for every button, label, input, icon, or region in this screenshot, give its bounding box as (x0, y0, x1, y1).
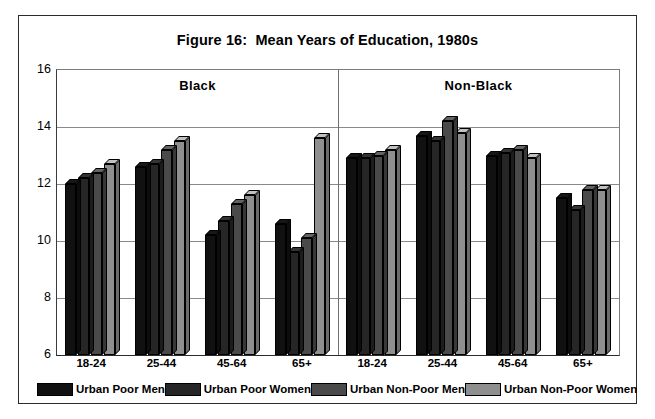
bar-cluster (65, 70, 120, 355)
bar[interactable] (135, 167, 146, 355)
y-tick-label-8: 8 (44, 290, 51, 304)
bar-cluster (135, 70, 190, 355)
x-tick-label-65+: 65+ (573, 357, 593, 369)
bar-side-face (536, 153, 541, 355)
x-tick-label-18-24: 18-24 (76, 357, 105, 369)
bar[interactable] (416, 136, 427, 355)
bar-side-face (216, 230, 221, 355)
legend-item-3[interactable]: Urban Non-Poor Women (465, 383, 637, 396)
bar-side-face (89, 173, 94, 355)
legend-item-1[interactable]: Urban Poor Women (165, 383, 311, 396)
bar-side-face (580, 205, 585, 355)
bar[interactable] (486, 156, 497, 356)
chart-legend: Urban Poor MenUrban Poor WomenUrban Non-… (37, 379, 621, 399)
bar-side-face (325, 133, 330, 355)
bar-side-face (172, 145, 177, 355)
legend-swatch-icon (165, 383, 201, 396)
bar-side-face (159, 159, 164, 355)
bar-face (486, 156, 497, 356)
bar-side-face (312, 233, 317, 355)
legend-label: Urban Poor Women (204, 383, 311, 395)
bar-cluster (556, 70, 611, 355)
bar-side-face (523, 145, 528, 355)
bar[interactable] (65, 184, 76, 355)
bar-side-face (497, 151, 502, 356)
bar-side-face (383, 151, 388, 356)
bar-side-face (370, 153, 375, 355)
bar-side-face (466, 128, 471, 355)
bar-side-face (76, 179, 81, 355)
bar-face (556, 198, 567, 355)
bar-face (135, 167, 146, 355)
bar-cluster (205, 70, 260, 355)
legend-swatch-icon (311, 383, 347, 396)
y-tick-label-12: 12 (37, 176, 51, 190)
bar-side-face (242, 199, 247, 355)
x-tick-label-18-24: 18-24 (357, 357, 386, 369)
bar-side-face (606, 185, 611, 355)
bar-side-face (299, 247, 304, 355)
bar-side-face (229, 216, 234, 355)
bar-face (416, 136, 427, 355)
bar[interactable] (205, 235, 216, 355)
bar-cluster (275, 70, 330, 355)
bar-face (205, 235, 216, 355)
x-tick-label-25-44: 25-44 (428, 357, 457, 369)
bar-side-face (357, 153, 362, 355)
bar-side-face (567, 193, 572, 355)
y-tick-label-14: 14 (37, 119, 51, 133)
bar-side-face (440, 136, 445, 355)
bar-face (65, 184, 76, 355)
bar-face (275, 224, 286, 355)
x-axis-category-labels: 18-2425-4445-6465+18-2425-4445-6465+ (56, 357, 618, 377)
y-tick-label-16: 16 (37, 62, 51, 76)
bar-side-face (185, 136, 190, 355)
y-tick-label-10: 10 (37, 233, 51, 247)
bar-side-face (510, 148, 515, 355)
legend-label: Urban Non-Poor Men (350, 383, 465, 395)
bar-side-face (427, 131, 432, 355)
bar-side-face (115, 159, 120, 355)
x-tick-label-65+: 65+ (292, 357, 312, 369)
plot-area: Black Non-Black (56, 69, 620, 356)
legend-label: Urban Poor Men (76, 383, 165, 395)
figure-container: Figure 16: Mean Years of Education, 1980… (18, 15, 637, 404)
legend-swatch-icon (465, 383, 501, 396)
legend-item-0[interactable]: Urban Poor Men (37, 383, 165, 396)
bar-side-face (146, 162, 151, 355)
bar-cluster (346, 70, 401, 355)
bar-face (346, 158, 357, 355)
figure-title: Figure 16: Mean Years of Education, 1980… (19, 32, 636, 48)
legend-item-2[interactable]: Urban Non-Poor Men (311, 383, 465, 396)
legend-label: Urban Non-Poor Women (504, 383, 637, 395)
legend-swatch-icon (37, 383, 73, 396)
bar-cluster (416, 70, 471, 355)
bar[interactable] (556, 198, 567, 355)
bar[interactable] (346, 158, 357, 355)
bar-side-face (286, 219, 291, 355)
bar-side-face (593, 185, 598, 355)
y-axis-tick-labels: 1614121086 (19, 16, 55, 405)
y-tick-label-6: 6 (44, 347, 51, 361)
bar-side-face (255, 190, 260, 355)
bar-side-face (102, 168, 107, 355)
bar-cluster (486, 70, 541, 355)
x-tick-label-45-64: 45-64 (217, 357, 246, 369)
bar-series-group (57, 70, 619, 355)
x-tick-label-25-44: 25-44 (147, 357, 176, 369)
x-tick-label-45-64: 45-64 (498, 357, 527, 369)
bar[interactable] (275, 224, 286, 355)
bar-side-face (396, 145, 401, 355)
bar-side-face (453, 116, 458, 355)
